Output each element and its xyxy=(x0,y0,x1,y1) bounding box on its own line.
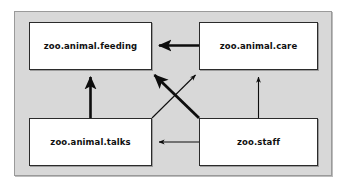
package-node-label: zoo.animal.talks xyxy=(50,137,130,147)
package-node-label: zoo.staff xyxy=(237,137,280,147)
package-node-staff[interactable]: zoo.staff xyxy=(199,118,318,166)
package-node-feeding[interactable]: zoo.animal.feeding xyxy=(29,22,152,70)
package-node-label: zoo.animal.feeding xyxy=(44,41,137,51)
package-node-care[interactable]: zoo.animal.care xyxy=(199,22,318,70)
package-node-label: zoo.animal.care xyxy=(220,41,298,51)
diagram-canvas: zoo.animal.feeding zoo.animal.care zoo.a… xyxy=(0,0,346,188)
package-node-talks[interactable]: zoo.animal.talks xyxy=(29,118,152,166)
